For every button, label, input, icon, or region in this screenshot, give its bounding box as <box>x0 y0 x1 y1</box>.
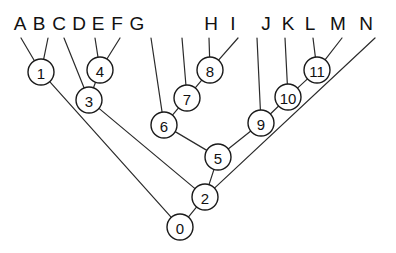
node-label-10: 10 <box>280 90 297 107</box>
node-label-7: 7 <box>183 91 191 108</box>
tree-node-2[interactable]: 2 <box>192 184 218 210</box>
tree-edge-3-2 <box>99 108 195 188</box>
node-label-6: 6 <box>160 118 168 135</box>
leaf-label-l: L <box>305 13 316 34</box>
tree-node-9[interactable]: 9 <box>248 110 274 136</box>
tree-edge-1-0 <box>50 82 172 218</box>
leaf-labels-layer: ABCDEFGHIJKLMN <box>14 13 373 34</box>
leaf-label-n: N <box>359 13 373 34</box>
tree-edge-L-11 <box>313 38 315 57</box>
tree-edge-2-0 <box>188 207 196 217</box>
leaf-label-e: E <box>92 13 105 34</box>
tree-edge-8-7 <box>195 80 201 88</box>
leaf-label-m: M <box>330 13 346 34</box>
tree-edge-B-1 <box>44 38 48 59</box>
leaf-label-h: H <box>204 13 218 34</box>
node-label-8: 8 <box>206 63 214 80</box>
tree-edge-K-10 <box>285 38 287 84</box>
node-label-5: 5 <box>214 150 222 167</box>
leaf-label-b: B <box>33 13 46 34</box>
node-label-3: 3 <box>85 93 93 110</box>
tree-edge-E-4 <box>107 38 120 59</box>
tree-node-11[interactable]: 11 <box>304 57 330 83</box>
node-label-11: 11 <box>309 63 325 80</box>
leaf-label-i: I <box>230 13 235 34</box>
leaf-label-k: K <box>282 13 295 34</box>
tree-edge-M-11 <box>325 38 342 60</box>
tree-nodes-layer: 01234567891011 <box>28 57 330 240</box>
node-label-0: 0 <box>176 220 184 237</box>
tree-edge-C-3 <box>64 38 84 88</box>
tree-edge-9-5 <box>228 131 251 149</box>
tree-edge-F-6 <box>151 38 162 112</box>
tree-node-8[interactable]: 8 <box>197 57 223 83</box>
node-label-1: 1 <box>37 65 45 82</box>
tree-edge-A-1 <box>21 38 34 61</box>
tree-edge-10-9 <box>270 106 278 114</box>
tree-node-0[interactable]: 0 <box>167 214 193 240</box>
tree-edge-I-8 <box>219 38 238 60</box>
tree-edge-D-4 <box>95 38 98 57</box>
tree-node-5[interactable]: 5 <box>205 144 231 170</box>
tree-edge-H-8 <box>209 38 210 57</box>
phylogenetic-tree-figure: 01234567891011 ABCDEFGHIJKLMN <box>0 0 396 253</box>
tree-edge-11-10 <box>298 79 308 88</box>
tree-node-7[interactable]: 7 <box>174 85 200 111</box>
leaf-label-f: F <box>111 13 123 34</box>
tree-edge-6-5 <box>175 132 207 151</box>
leaf-label-c: C <box>52 13 66 34</box>
tree-node-10[interactable]: 10 <box>275 84 301 110</box>
tree-edge-7-6 <box>172 108 178 115</box>
tree-edge-5-2 <box>209 169 214 184</box>
tree-canvas: 01234567891011 ABCDEFGHIJKLMN <box>0 0 396 253</box>
tree-edge-G-7 <box>182 38 186 85</box>
tree-edge-4-3 <box>93 82 95 88</box>
node-label-9: 9 <box>257 116 265 133</box>
tree-edge-J-9 <box>257 38 260 110</box>
tree-node-3[interactable]: 3 <box>76 87 102 113</box>
leaf-label-g: G <box>130 13 145 34</box>
tree-edge-N-2 <box>214 38 375 188</box>
tree-node-1[interactable]: 1 <box>28 59 54 85</box>
leaf-label-d: D <box>72 13 86 34</box>
tree-node-6[interactable]: 6 <box>151 112 177 138</box>
tree-node-4[interactable]: 4 <box>87 57 113 83</box>
node-label-2: 2 <box>201 190 209 207</box>
node-label-4: 4 <box>96 63 104 80</box>
leaf-label-a: A <box>14 13 27 34</box>
leaf-label-j: J <box>261 13 271 34</box>
